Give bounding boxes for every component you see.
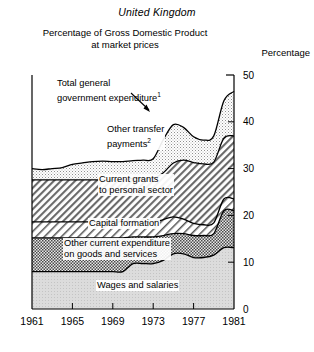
- annotation-transfer: Other transfer payments2: [106, 124, 165, 150]
- y-axis-title: Percentage: [261, 47, 310, 58]
- annotation-total: Total general government expenditure1: [57, 78, 161, 104]
- y-tick-label: 50: [243, 70, 255, 81]
- subtitle-line-2: at market prices: [91, 39, 159, 50]
- country-title: United Kingdom: [0, 6, 314, 18]
- annotation-wages: Wages and salaries: [96, 280, 179, 291]
- x-tick-label: 1981: [222, 315, 246, 327]
- y-tick-label: 10: [243, 257, 255, 268]
- annotation-transfer-text: Other transfer payments: [107, 124, 164, 149]
- x-tick-label: 1969: [101, 315, 125, 327]
- x-tick-label: 1977: [182, 315, 206, 327]
- annotation-grants: Current grants to personal sector: [98, 174, 174, 196]
- y-tick-label: 0: [243, 304, 249, 315]
- subtitle-line-1: Percentage of Gross Domestic Product: [43, 27, 208, 38]
- chart-container: United Kingdom Percentage of Gross Domes…: [0, 0, 314, 352]
- y-tick-label: 30: [243, 163, 255, 174]
- x-tick-label: 1973: [142, 315, 166, 327]
- footnote-marker-2: 2: [147, 137, 151, 144]
- annotation-capital: Capital formation: [88, 218, 160, 229]
- x-tick-label: 1965: [61, 315, 85, 327]
- annotation-total-text: Total general government expenditure: [57, 78, 157, 103]
- chart-subtitle: Percentage of Gross Domestic Product at …: [20, 27, 230, 51]
- y-tick-label: 40: [243, 116, 255, 127]
- annotation-other-current: Other current expenditure on goods and s…: [63, 238, 171, 260]
- x-tick-label: 1961: [20, 315, 44, 327]
- footnote-marker-1: 1: [157, 91, 161, 98]
- y-tick-label: 20: [243, 210, 255, 221]
